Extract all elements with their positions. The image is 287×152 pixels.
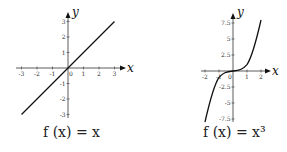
y-tick-label: 5	[227, 35, 231, 42]
x-tick-label: 0	[228, 73, 232, 80]
y-tick-label: -2.5	[219, 83, 231, 90]
y-axis-label: y	[71, 5, 79, 19]
y-tick-label: -3	[60, 111, 66, 118]
y-tick-label: 1	[62, 49, 66, 56]
x-tick-label: 2	[97, 70, 101, 77]
y-tick-label: 7.5	[221, 19, 231, 26]
graph-cubic: -2 -1 0 1 2 7.5 5 2.5 -2.5 -5 -7.5 x y	[201, 5, 279, 122]
graph-linear: -3 -2 -1 0 1 2 3 3 2 1 -1 -2 -3 x y	[16, 5, 134, 118]
x-axis-label: x	[272, 64, 279, 78]
y-tick-label: 2	[62, 33, 66, 40]
y-axis-label: y	[236, 5, 244, 19]
caption-linear: f (x) = x	[43, 124, 100, 140]
x-tick-label: 0	[69, 70, 73, 77]
y-tick-label: -2	[60, 95, 66, 102]
y-tick-label: -7.5	[219, 115, 231, 122]
y-axis-arrow-icon	[66, 12, 71, 18]
y-tick-label: 3	[62, 18, 66, 25]
x-axis-arrow-icon	[120, 66, 126, 71]
x-tick-label: -2	[202, 73, 208, 80]
x-axis-label: x	[127, 61, 134, 75]
x-tick-label: 1	[245, 73, 249, 80]
y-tick-label: -5	[225, 99, 231, 106]
y-tick-label: -1	[60, 80, 66, 87]
x-axis-arrow-icon	[265, 69, 271, 74]
y-axis-arrow-icon	[231, 13, 236, 19]
caption-cubic: f (x) = x³	[203, 124, 266, 140]
x-tick-label: -2	[34, 70, 40, 77]
x-tick-label: 2	[259, 73, 263, 80]
y-tick-label: 2.5	[221, 51, 231, 58]
x-tick-label: 1	[82, 70, 86, 77]
x-tick-label: -3	[19, 70, 25, 77]
x-tick-label: 3	[113, 70, 117, 77]
x-tick-label: -1	[50, 70, 56, 77]
